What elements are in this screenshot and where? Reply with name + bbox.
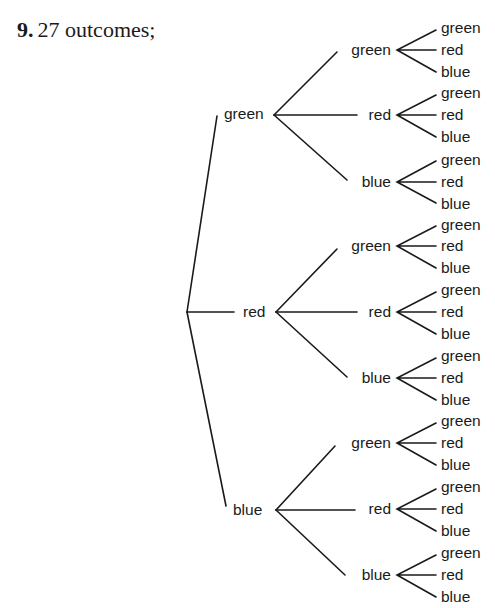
leaf-label: red (441, 303, 463, 321)
leaf-label: red (441, 106, 463, 124)
leaf-label: blue (441, 259, 470, 277)
leaf-label: red (441, 566, 463, 584)
leaf-label: green (441, 151, 481, 169)
level1-label-green: green (224, 105, 264, 123)
level2-label-blue-blue: blue (362, 566, 391, 584)
leaf-label: blue (441, 128, 470, 146)
level2-label-red-blue: blue (362, 369, 391, 387)
level2-label-green-blue: blue (362, 173, 391, 191)
leaf-label: red (441, 237, 463, 255)
level1-label-blue: blue (233, 501, 262, 519)
level1-label-red: red (243, 303, 265, 321)
leaf-label: blue (441, 456, 470, 474)
leaf-label: blue (441, 195, 470, 213)
leaf-label: blue (441, 588, 470, 606)
level2-label-red-green: green (351, 237, 391, 255)
leaf-label: green (441, 478, 481, 496)
leaf-label: green (441, 544, 481, 562)
leaf-label: green (441, 216, 481, 234)
leaf-label: green (441, 281, 481, 299)
leaf-label: blue (441, 391, 470, 409)
leaf-label: green (441, 84, 481, 102)
leaf-label: blue (441, 63, 470, 81)
leaf-label: green (441, 412, 481, 430)
leaf-label: red (441, 434, 463, 452)
level2-label-green-green: green (351, 41, 391, 59)
leaf-label: green (441, 19, 481, 37)
leaf-label: red (441, 173, 463, 191)
leaf-label: blue (441, 325, 470, 343)
leaf-label: red (441, 369, 463, 387)
leaf-label: red (441, 41, 463, 59)
level2-label-green-red: red (369, 106, 391, 124)
level2-label-blue-red: red (369, 500, 391, 518)
leaf-label: red (441, 500, 463, 518)
level2-label-blue-green: green (351, 434, 391, 452)
leaf-label: green (441, 347, 481, 365)
leaf-label: blue (441, 522, 470, 540)
level2-label-red-red: red (369, 303, 391, 321)
